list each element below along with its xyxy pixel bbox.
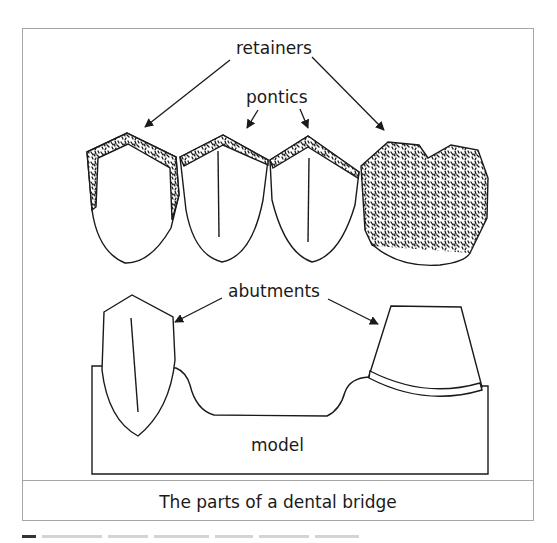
pontic-1: [180, 135, 268, 262]
retainer-right: [361, 142, 488, 265]
arrow-abutments-right: [328, 299, 378, 324]
arrow-abutments-left: [175, 298, 222, 322]
retainer-left: [87, 133, 179, 263]
abutment-right: [369, 306, 482, 396]
label-model: model: [251, 437, 304, 454]
arrow-retainers-left: [145, 60, 230, 127]
dental-bridge-diagram: [0, 0, 557, 543]
arrow-pontics-right: [300, 109, 308, 128]
label-pontics: pontics: [246, 89, 308, 106]
figure-caption: The parts of a dental bridge: [22, 492, 534, 512]
label-retainers: retainers: [236, 40, 312, 57]
bridge-group: [87, 133, 488, 265]
arrow-retainers-right: [312, 57, 384, 130]
cutoff-text-line: [22, 535, 492, 543]
arrow-pontics-left: [247, 110, 258, 128]
pontic-2: [270, 136, 359, 262]
label-abutments: abutments: [228, 283, 320, 300]
caption-divider: [22, 480, 534, 481]
